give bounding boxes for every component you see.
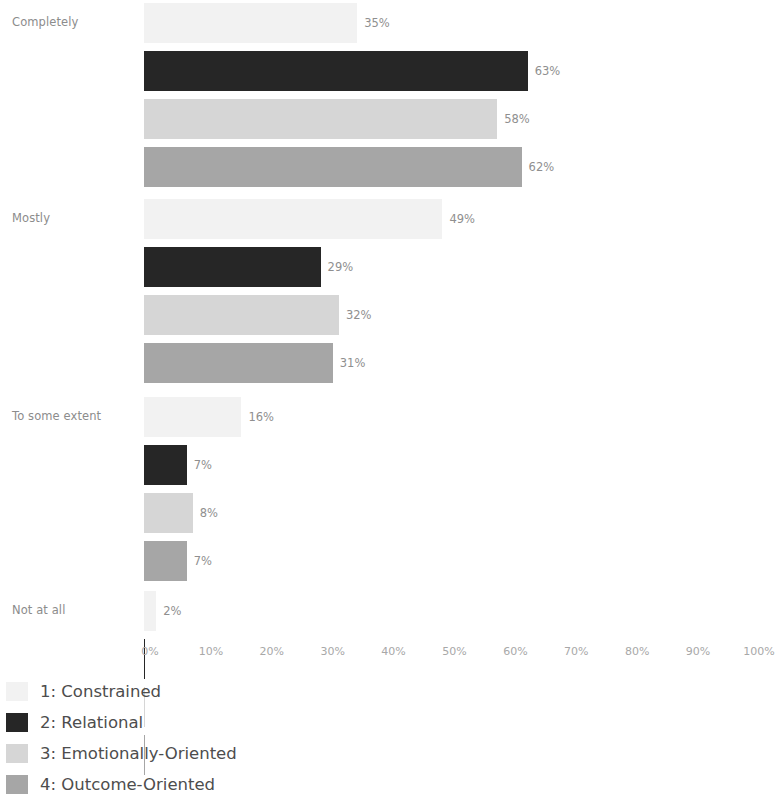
bar[interactable] [144, 591, 156, 631]
bar[interactable] [144, 493, 193, 533]
bar-group-item: 7% [144, 445, 187, 485]
x-axis-tick-label: 40% [381, 645, 405, 658]
x-axis-tick-label: 80% [625, 645, 649, 658]
bar[interactable] [144, 247, 321, 287]
bar-value-label: 2% [156, 604, 181, 618]
bar-group-item: 7% [144, 541, 187, 581]
bar[interactable] [144, 199, 442, 239]
bar-value-label: 49% [442, 212, 475, 226]
bar-value-label: 31% [333, 356, 366, 370]
x-axis-tick-label: 20% [260, 645, 284, 658]
bar[interactable] [144, 99, 497, 139]
legend-item[interactable]: 4: Outcome-Oriented [6, 769, 406, 800]
bar-group-item: 35% [144, 3, 357, 43]
legend-swatch-icon [6, 775, 28, 794]
legend-item[interactable]: 1: Constrained [6, 676, 406, 707]
bar-value-label: 16% [241, 410, 274, 424]
y-axis-category-label: Completely [12, 16, 78, 28]
bar[interactable] [144, 51, 528, 91]
legend-item-label: 1: Constrained [40, 682, 161, 701]
x-axis-tick-label: 50% [442, 645, 466, 658]
bar-value-label: 35% [357, 16, 390, 30]
legend-item-label: 4: Outcome-Oriented [40, 775, 215, 794]
bar-value-label: 32% [339, 308, 372, 322]
bar-value-label: 63% [528, 64, 561, 78]
x-axis-tick-label: 70% [564, 645, 588, 658]
x-axis-tick-label: 30% [320, 645, 344, 658]
bar[interactable] [144, 343, 333, 383]
legend-item[interactable]: 2: Relational [6, 707, 406, 738]
bar-group-item: 8% [144, 493, 193, 533]
y-axis-category-label: Mostly [12, 212, 50, 224]
bar-group-item: 2% [144, 591, 156, 631]
legend-item[interactable]: 3: Emotionally-Oriented [6, 738, 406, 769]
legend-swatch-icon [6, 744, 28, 763]
bar[interactable] [144, 295, 339, 335]
legend-item-label: 2: Relational [40, 713, 143, 732]
bar-group-item: 32% [144, 295, 339, 335]
bar-value-label: 7% [187, 458, 212, 472]
bar-value-label: 8% [193, 506, 218, 520]
legend-swatch-icon [6, 713, 28, 732]
x-axis-tick-label: 10% [199, 645, 223, 658]
y-axis-category-label: Not at all [12, 604, 65, 616]
bar[interactable] [144, 397, 241, 437]
bar[interactable] [144, 3, 357, 43]
bar-group-item: 63% [144, 51, 528, 91]
x-axis-tick-label: 90% [686, 645, 710, 658]
bar[interactable] [144, 445, 187, 485]
bar-group-item: 29% [144, 247, 321, 287]
y-axis-category-label: To some extent [12, 410, 101, 422]
bar[interactable] [144, 541, 187, 581]
legend-swatch-icon [6, 682, 28, 701]
bar-value-label: 7% [187, 554, 212, 568]
bar-group-item: 49% [144, 199, 442, 239]
x-axis-tick-label: 0% [141, 645, 158, 658]
x-axis-tick-label: 100% [743, 645, 774, 658]
legend-item-label: 3: Emotionally-Oriented [40, 744, 237, 763]
bar-value-label: 29% [321, 260, 354, 274]
bar-value-label: 62% [522, 160, 555, 174]
bar-group-item: 16% [144, 397, 241, 437]
bar-group-item: 58% [144, 99, 497, 139]
x-axis-tick-label: 60% [503, 645, 527, 658]
x-axis: 0%10%20%30%40%50%60%70%80%90%100% [0, 645, 784, 665]
bar[interactable] [144, 147, 522, 187]
plot-area: Completely35%63%58%62%Mostly49%29%32%31%… [0, 0, 784, 640]
bar-group-item: 31% [144, 343, 333, 383]
bar-group-item: 62% [144, 147, 522, 187]
chart-container: Completely35%63%58%62%Mostly49%29%32%31%… [0, 0, 784, 802]
bar-value-label: 58% [497, 112, 530, 126]
chart-legend: 1: Constrained2: Relational3: Emotionall… [6, 676, 406, 800]
